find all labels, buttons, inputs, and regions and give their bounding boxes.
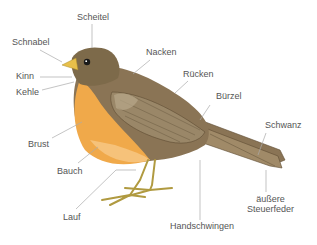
- label-scheitel: Scheitel: [77, 13, 109, 23]
- label-ruecken: Rücken: [183, 70, 214, 80]
- label-kinn: Kinn: [16, 72, 34, 82]
- label-schwanz: Schwanz: [265, 121, 302, 131]
- label-lauf: Lauf: [63, 213, 81, 223]
- label-bauch: Bauch: [57, 167, 83, 177]
- label-brust: Brust: [28, 140, 49, 150]
- legs: [102, 160, 172, 205]
- label-handschwingen: Handschwingen: [170, 222, 234, 232]
- label-buerzel: Bürzel: [216, 92, 242, 102]
- label-nacken: Nacken: [146, 48, 177, 58]
- label-aeussere-steuerfeder: äußere Steuerfeder: [247, 195, 294, 215]
- label-steuerfeder: Steuerfeder: [247, 205, 294, 215]
- label-kehle: Kehle: [16, 88, 39, 98]
- label-schnabel: Schnabel: [12, 38, 50, 48]
- head: [62, 48, 120, 86]
